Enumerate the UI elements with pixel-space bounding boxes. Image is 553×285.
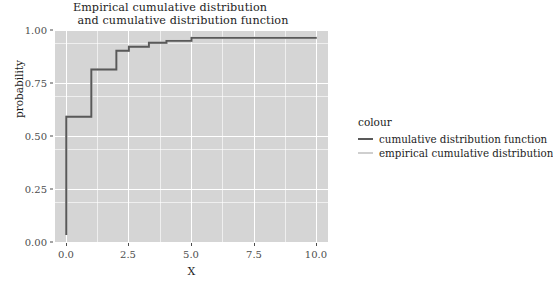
y-tick-label-0.75: 0.75 <box>13 78 47 89</box>
x-tick-mark-2.5 <box>128 243 129 246</box>
legend-label-empirical-cumulative-distribution: empirical cumulative distribution <box>374 147 553 159</box>
series-line-empirical-cumulative-distribution <box>66 38 316 235</box>
y-tick-label-0.50: 0.50 <box>13 131 47 142</box>
chart-title: Empirical cumulative distribution and cu… <box>0 1 340 27</box>
y-tick-mark-1.00 <box>50 30 53 31</box>
legend-item-cumulative-distribution-function[interactable]: cumulative distribution function <box>357 132 533 146</box>
legend: colour cumulative distribution function … <box>357 116 533 160</box>
y-tick-mark-0.50 <box>50 136 53 137</box>
legend-swatch-line-icon <box>357 132 374 146</box>
plot-series-area <box>55 30 328 243</box>
x-tick-label-10.0: 10.0 <box>296 249 336 260</box>
x-tick-label-0.0: 0.0 <box>46 249 86 260</box>
chart-title-line-2: and cumulative distribution function <box>0 14 340 27</box>
legend-label-cumulative-distribution-function: cumulative distribution function <box>374 133 547 145</box>
y-tick-label-0.25: 0.25 <box>13 184 47 195</box>
x-tick-mark-5.0 <box>191 243 192 246</box>
x-axis-label: X <box>55 265 328 278</box>
legend-item-empirical-cumulative-distribution[interactable]: empirical cumulative distribution <box>357 146 533 160</box>
y-tick-label-1.00: 1.00 <box>13 25 47 36</box>
series-line-cumulative-distribution-function <box>66 38 316 235</box>
x-tick-mark-0.0 <box>66 243 67 246</box>
y-tick-label-0.00: 0.00 <box>13 237 47 248</box>
legend-title: colour <box>357 116 533 128</box>
x-tick-label-2.5: 2.5 <box>108 249 148 260</box>
chart-title-line-1: Empirical cumulative distribution <box>0 1 340 14</box>
y-axis-ticks: 1.00 0.75 0.50 0.25 0.00 <box>0 0 47 285</box>
x-tick-mark-7.5 <box>254 243 255 246</box>
legend-swatch-line-icon <box>357 146 374 160</box>
y-tick-mark-0.00 <box>50 242 53 243</box>
plot-panel <box>55 30 328 243</box>
y-tick-mark-0.25 <box>50 189 53 190</box>
x-tick-mark-10.0 <box>316 243 317 246</box>
x-tick-label-5.0: 5.0 <box>171 249 211 260</box>
x-tick-label-7.5: 7.5 <box>234 249 274 260</box>
y-tick-mark-0.75 <box>50 83 53 84</box>
